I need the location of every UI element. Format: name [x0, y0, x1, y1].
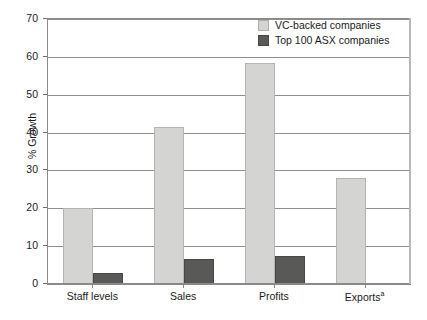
bar [63, 208, 93, 284]
legend: VC-backed companiesTop 100 ASX companies [258, 19, 389, 46]
y-axis-tick-label: 70 [12, 13, 38, 23]
y-axis-tick-label: 10 [12, 240, 38, 250]
category-label: Profits [229, 290, 320, 302]
legend-swatch [258, 35, 269, 46]
category-footnote-mark: a [380, 290, 384, 297]
bar-chart: % Growth 010203040506070 Staff levelsSal… [0, 0, 427, 320]
gridline [48, 170, 411, 171]
bar [336, 178, 366, 284]
bar [184, 259, 214, 284]
bar [245, 63, 275, 284]
legend-item: Top 100 ASX companies [258, 34, 389, 46]
plot-area [47, 18, 410, 283]
x-axis-line [47, 283, 411, 285]
plot-right-border [409, 18, 411, 284]
category-label: Sales [138, 290, 229, 302]
bar [154, 127, 184, 284]
x-axis-tick-mark [183, 284, 184, 288]
category-label: Exportsa [319, 290, 410, 303]
y-axis-tick-label: 50 [12, 89, 38, 99]
legend-item: VC-backed companies [258, 19, 389, 31]
y-axis-tick-label: 30 [12, 164, 38, 174]
y-axis-tick-label: 20 [12, 202, 38, 212]
x-axis-tick-mark [365, 284, 366, 288]
legend-swatch [258, 20, 269, 31]
gridline [48, 95, 411, 96]
y-axis-tick-label: 0 [12, 278, 38, 288]
y-axis-tick-label: 60 [12, 51, 38, 61]
x-axis-tick-mark [274, 284, 275, 288]
x-axis-tick-mark [92, 284, 93, 288]
gridline [48, 57, 411, 58]
legend-label: Top 100 ASX companies [275, 35, 389, 46]
category-label: Staff levels [47, 290, 138, 302]
y-axis-tick-label: 40 [12, 127, 38, 137]
bar [275, 256, 305, 284]
legend-label: VC-backed companies [275, 20, 381, 31]
gridline [48, 133, 411, 134]
